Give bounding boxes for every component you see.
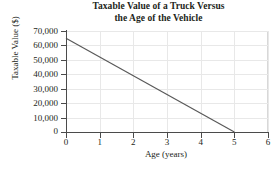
- plot-area: [66, 31, 268, 132]
- x-tick-label: 4: [191, 138, 211, 147]
- y-tick-mark: [61, 45, 66, 46]
- y-tick-label: 10,000: [2, 114, 58, 123]
- chart-title: Taxable Value of a Truck Versus the Age …: [40, 1, 277, 24]
- y-tick-label: 20,000: [2, 99, 58, 108]
- x-tick-label: 2: [123, 138, 143, 147]
- y-tick-mark: [61, 103, 66, 104]
- y-tick-label: 50,000: [2, 56, 58, 65]
- y-tick-label: 60,000: [2, 41, 58, 50]
- y-tick-mark: [61, 74, 66, 75]
- series-line-taxable-value: [66, 38, 234, 132]
- gridline-vertical: [268, 31, 269, 132]
- x-tick-label: 1: [90, 138, 110, 147]
- y-tick-mark: [61, 89, 66, 90]
- y-tick-label: 70,000: [2, 27, 58, 36]
- x-tick-label: 5: [224, 138, 244, 147]
- chart-title-line-2: the Age of the Vehicle: [40, 13, 277, 25]
- y-tick-mark: [61, 118, 66, 119]
- x-tick-label: 0: [56, 138, 76, 147]
- y-tick-label: 30,000: [2, 85, 58, 94]
- y-tick-mark: [61, 60, 66, 61]
- y-tick-mark: [61, 31, 66, 32]
- chart-figure: Taxable Value of a Truck Versus the Age …: [0, 0, 277, 169]
- x-tick-label: 3: [157, 138, 177, 147]
- y-tick-label: 40,000: [2, 70, 58, 79]
- series-line-layer: [66, 31, 268, 132]
- y-axis-line: [66, 30, 67, 133]
- x-tick-label: 6: [258, 138, 277, 147]
- x-axis-title: Age (years): [62, 149, 270, 159]
- y-origin-label: 0: [2, 127, 58, 136]
- chart-title-line-1: Taxable Value of a Truck Versus: [40, 1, 277, 13]
